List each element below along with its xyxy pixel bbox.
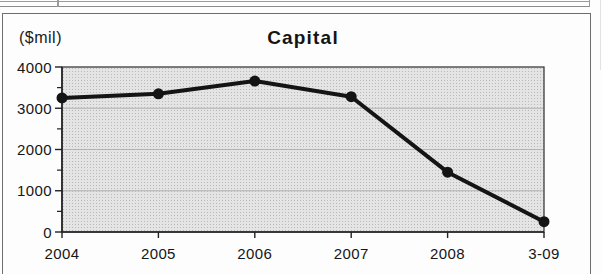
scanned-chart-page: ($mil) Capital 01000200030004000 2004200… xyxy=(0,0,602,274)
x-tick-label: 2008 xyxy=(416,245,480,262)
x-tick-label: 2004 xyxy=(30,245,94,262)
x-axis-labels: 200420052006200720083-09 xyxy=(0,0,602,274)
x-tick-label: 2005 xyxy=(126,245,190,262)
x-tick-label: 2007 xyxy=(319,245,383,262)
x-tick-label: 2006 xyxy=(223,245,287,262)
x-tick-label: 3-09 xyxy=(512,245,576,262)
